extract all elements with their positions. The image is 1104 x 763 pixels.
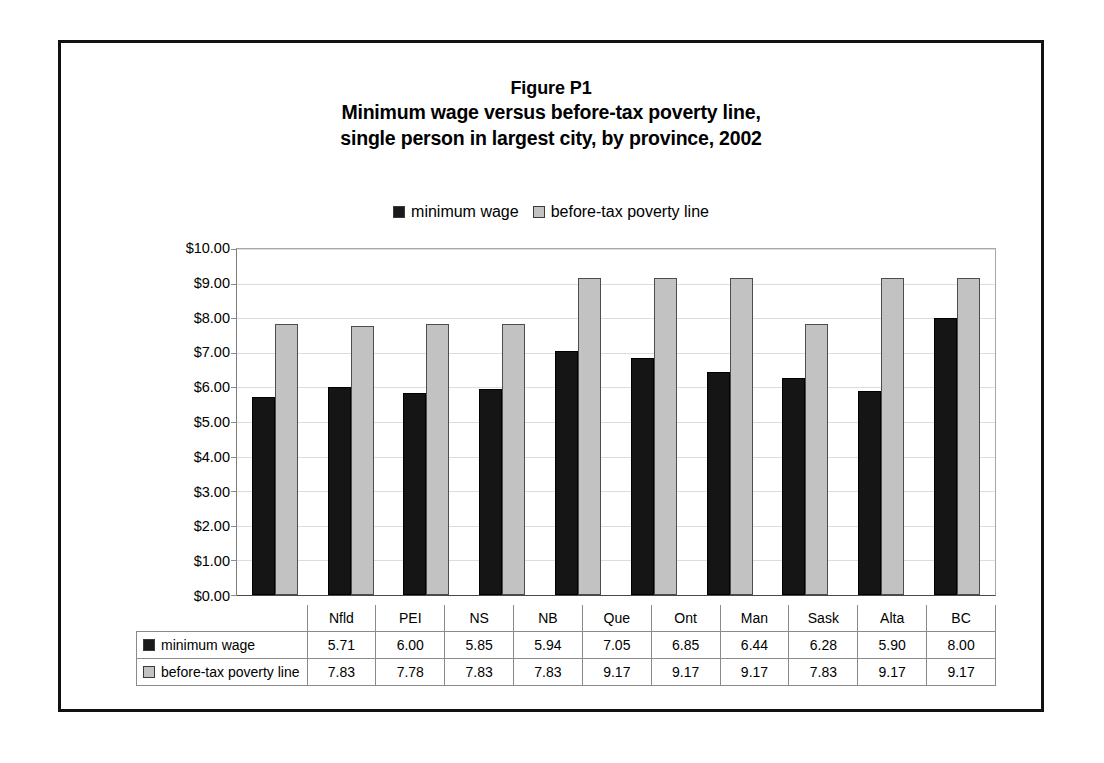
y-tick-label-8: $8.00 — [194, 310, 230, 326]
column-header-nfld: Nfld — [307, 605, 376, 632]
bar-que-series-0 — [555, 351, 578, 595]
row-swatch-icon-1 — [143, 666, 155, 678]
table-row: before-tax poverty line7.837.787.837.839… — [137, 659, 996, 686]
y-tick-mark-9 — [231, 284, 237, 285]
bar-pei-series-1 — [351, 326, 374, 595]
bar-nb-series-0 — [479, 389, 502, 595]
y-tick-mark-6 — [231, 387, 237, 388]
table-row: minimum wage5.716.005.855.947.056.856.44… — [137, 632, 996, 659]
legend-swatch-icon-0 — [393, 206, 405, 218]
column-header-que: Que — [582, 605, 651, 632]
bar-group-sask — [768, 249, 844, 595]
legend-entry-1: before-tax poverty line — [533, 203, 709, 221]
y-tick-label-1: $1.00 — [194, 553, 230, 569]
y-tick-mark-10 — [231, 249, 237, 250]
bar-bc-series-1 — [957, 278, 980, 595]
bar-group-que — [540, 249, 616, 595]
row-header-series-0: minimum wage — [137, 632, 308, 659]
row-header-label-1: before-tax poverty line — [161, 664, 300, 680]
y-tick-label-7: $7.00 — [194, 344, 230, 360]
bar-sask-series-1 — [805, 324, 828, 595]
bar-ns-series-0 — [403, 393, 426, 595]
cell-que-series-0: 7.05 — [582, 632, 651, 659]
legend-entry-0: minimum wage — [393, 203, 519, 221]
column-header-ns: NS — [445, 605, 514, 632]
cell-bc-series-1: 9.17 — [927, 659, 996, 686]
bar-alta-series-1 — [881, 278, 904, 595]
table-corner-cell — [137, 605, 308, 632]
cell-alta-series-0: 5.90 — [858, 632, 927, 659]
bar-group-nfld — [237, 249, 313, 595]
bar-group-bc — [919, 249, 995, 595]
cell-bc-series-0: 8.00 — [927, 632, 996, 659]
y-tick-label-10: $10.00 — [186, 240, 230, 256]
y-tick-label-3: $3.00 — [194, 484, 230, 500]
cell-man-series-0: 6.44 — [720, 632, 789, 659]
y-tick-label-9: $9.00 — [194, 275, 230, 291]
column-header-man: Man — [720, 605, 789, 632]
legend-swatch-icon-1 — [533, 206, 545, 218]
cell-que-series-1: 9.17 — [582, 659, 651, 686]
cell-pei-series-1: 7.78 — [376, 659, 445, 686]
data-table: NfldPEINSNBQueOntManSaskAltaBCminimum wa… — [136, 605, 996, 686]
bar-nfld-series-1 — [275, 324, 298, 595]
bar-group-man — [692, 249, 768, 595]
column-header-ont: Ont — [651, 605, 720, 632]
cell-nfld-series-1: 7.83 — [307, 659, 376, 686]
y-tick-mark-3 — [231, 491, 237, 492]
plot-area — [236, 248, 996, 596]
cell-nfld-series-0: 5.71 — [307, 632, 376, 659]
cell-sask-series-0: 6.28 — [789, 632, 858, 659]
column-header-bc: BC — [927, 605, 996, 632]
cell-pei-series-0: 6.00 — [376, 632, 445, 659]
bar-ont-series-1 — [654, 278, 677, 595]
bar-nfld-series-0 — [252, 397, 275, 595]
column-header-alta: Alta — [858, 605, 927, 632]
table-header-row: NfldPEINSNBQueOntManSaskAltaBC — [137, 605, 996, 632]
y-tick-mark-4 — [231, 457, 237, 458]
y-tick-mark-7 — [231, 353, 237, 354]
cell-ns-series-0: 5.85 — [445, 632, 514, 659]
figure-title-line-1: Figure P1 — [61, 77, 1041, 100]
bar-group-nb — [464, 249, 540, 595]
bar-pei-series-0 — [328, 387, 351, 595]
bar-bc-series-0 — [934, 318, 957, 595]
bar-nb-series-1 — [502, 324, 525, 595]
bar-alta-series-0 — [858, 391, 881, 595]
bars-layer — [237, 249, 995, 595]
bar-group-alta — [843, 249, 919, 595]
cell-man-series-1: 9.17 — [720, 659, 789, 686]
bar-man-series-1 — [730, 278, 753, 595]
bar-group-ont — [616, 249, 692, 595]
y-tick-mark-1 — [231, 560, 237, 561]
chart-region: $0.00$1.00$2.00$3.00$4.00$5.00$6.00$7.00… — [236, 248, 996, 596]
cell-ont-series-0: 6.85 — [651, 632, 720, 659]
y-tick-mark-5 — [231, 422, 237, 423]
y-tick-mark-2 — [231, 526, 237, 527]
legend-label-0: minimum wage — [411, 203, 519, 221]
y-tick-label-4: $4.00 — [194, 449, 230, 465]
figure-title-line-3: single person in largest city, by provin… — [61, 126, 1041, 151]
row-swatch-icon-0 — [143, 639, 155, 651]
y-tick-label-0: $0.00 — [194, 588, 230, 604]
y-tick-mark-0 — [231, 595, 237, 596]
bar-sask-series-0 — [782, 378, 805, 595]
bar-group-ns — [389, 249, 465, 595]
cell-nb-series-1: 7.83 — [514, 659, 583, 686]
cell-ont-series-1: 9.17 — [651, 659, 720, 686]
row-header-series-1: before-tax poverty line — [137, 659, 308, 686]
figure-frame: Figure P1 Minimum wage versus before-tax… — [58, 40, 1044, 712]
cell-nb-series-0: 5.94 — [514, 632, 583, 659]
bar-group-pei — [313, 249, 389, 595]
column-header-sask: Sask — [789, 605, 858, 632]
y-tick-label-2: $2.00 — [194, 518, 230, 534]
chart-legend: minimum wagebefore-tax poverty line — [61, 203, 1041, 221]
bar-ns-series-1 — [426, 324, 449, 595]
figure-title: Figure P1 Minimum wage versus before-tax… — [61, 77, 1041, 151]
bar-ont-series-0 — [631, 358, 654, 595]
figure-title-line-2: Minimum wage versus before-tax poverty l… — [61, 100, 1041, 125]
y-tick-label-5: $5.00 — [194, 414, 230, 430]
row-header-label-0: minimum wage — [161, 637, 255, 653]
column-header-pei: PEI — [376, 605, 445, 632]
y-axis: $0.00$1.00$2.00$3.00$4.00$5.00$6.00$7.00… — [158, 248, 230, 596]
